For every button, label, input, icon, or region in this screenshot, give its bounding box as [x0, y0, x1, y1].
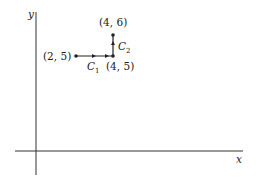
point-label-4-6: (4, 6): [99, 17, 127, 28]
point-label-4-5: (4, 5): [106, 61, 134, 72]
curve-c1-name: C: [87, 60, 95, 72]
x-axis-label: x: [236, 154, 242, 165]
point-4-5: [111, 54, 115, 58]
curve-label-c2: C2: [118, 41, 131, 55]
point-2-5: [74, 54, 78, 58]
arrow-right-icon: [105, 54, 109, 58]
path-c1: [76, 54, 113, 58]
curve-label-c1: C1: [87, 61, 100, 75]
arrow-up-icon: [111, 41, 115, 45]
curve-c1-sub: 1: [95, 67, 99, 75]
diagram-canvas: [0, 0, 257, 179]
point-label-2-5: (2, 5): [43, 51, 71, 62]
curve-c2-sub: 2: [126, 47, 130, 55]
point-4-6: [111, 33, 115, 37]
curve-c2-name: C: [118, 40, 126, 52]
arrow-right-icon: [92, 54, 96, 58]
y-axis-label: y: [28, 9, 34, 20]
path-c2: [111, 35, 115, 56]
